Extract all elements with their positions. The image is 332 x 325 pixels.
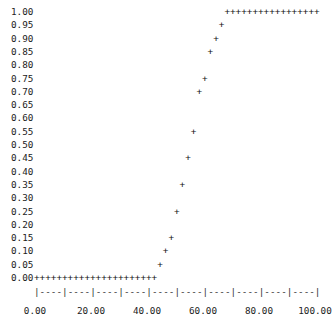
y-tick-label: 0.20: [11, 219, 33, 231]
data-point-marker: +: [157, 259, 163, 271]
data-point-marker: +: [152, 272, 158, 284]
data-point-marker: +: [180, 179, 186, 191]
x-axis-line: |----|----|----|----|----|----|----|----…: [34, 286, 320, 298]
y-tick-label: 0.95: [11, 19, 33, 31]
y-tick-label: 0.70: [11, 86, 33, 98]
data-point-marker: +: [213, 33, 219, 45]
y-tick-label: 0.00: [11, 272, 33, 284]
y-tick-label: 0.10: [11, 245, 33, 257]
data-point-marker: +: [219, 19, 225, 31]
data-point-marker: +: [202, 73, 208, 85]
y-tick-label: 0.50: [11, 139, 33, 151]
data-point-marker: +: [314, 6, 320, 18]
y-tick-label: 0.45: [11, 152, 33, 164]
y-tick-label: 0.15: [11, 232, 33, 244]
data-point-marker: +: [185, 152, 191, 164]
y-tick-label: 0.40: [11, 166, 33, 178]
x-tick-label: 40.00: [133, 305, 161, 317]
x-tick-label: 20.00: [77, 305, 105, 317]
y-tick-label: 0.35: [11, 179, 33, 191]
y-tick-label: 0.75: [11, 73, 33, 85]
data-point-marker: +: [196, 86, 202, 98]
data-point-marker: +: [174, 206, 180, 218]
data-point-marker: +: [168, 232, 174, 244]
y-tick-label: 0.80: [11, 59, 33, 71]
y-tick-label: 0.65: [11, 99, 33, 111]
y-tick-label: 0.60: [11, 112, 33, 124]
y-tick-label: 0.55: [11, 126, 33, 138]
y-tick-label: 0.90: [11, 33, 33, 45]
x-tick-label: 60.00: [189, 305, 217, 317]
y-tick-label: 1.00: [11, 6, 33, 18]
data-point-marker: +: [163, 245, 169, 257]
x-tick-label: 100.00: [298, 305, 332, 317]
y-tick-label: 0.05: [11, 259, 33, 271]
data-point-marker: +: [208, 46, 214, 58]
y-tick-label: 0.30: [11, 192, 33, 204]
x-tick-label: 80.00: [245, 305, 273, 317]
y-tick-label: 0.85: [11, 46, 33, 58]
y-tick-label: 0.25: [11, 206, 33, 218]
x-tick-label: 0.00: [24, 305, 46, 317]
data-point-marker: +: [191, 126, 197, 138]
